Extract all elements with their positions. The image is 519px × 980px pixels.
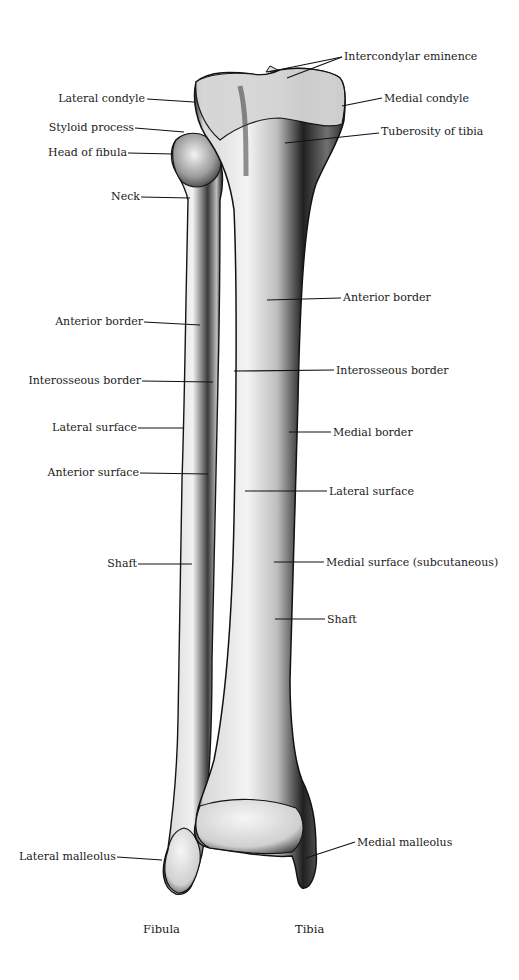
label-medial-malleolus: Medial malleolus [357,836,452,850]
caption-fibula: Fibula [143,922,180,936]
label-tibia-anterior-border: Anterior border [343,291,431,305]
label-medial-border: Medial border [333,426,413,440]
label-lateral-malleolus: Lateral malleolus [19,850,116,864]
label-fibula-interosseous-border: Interosseous border [28,374,141,388]
label-tibia-interosseous-border: Interosseous border [336,364,449,378]
label-fibula-anterior-border: Anterior border [55,315,143,329]
label-neck: Neck [111,190,140,204]
label-fibula-anterior-surface: Anterior surface [48,466,139,480]
label-tuberosity-of-tibia: Tuberosity of tibia [381,125,483,139]
label-tibia-shaft: Shaft [327,613,357,627]
label-medial-condyle: Medial condyle [384,92,469,106]
label-intercondylar-eminence: Intercondylar eminence [344,50,477,64]
label-fibula-shaft: Shaft [107,557,137,571]
label-tibia-lateral-surface: Lateral surface [329,485,414,499]
tibia-fibula-diagram: Lateral condyle Styloid process Head of … [0,0,519,980]
label-head-of-fibula: Head of fibula [48,146,127,160]
caption-tibia: Tibia [295,922,324,936]
label-medial-surface: Medial surface (subcutaneous) [326,556,498,570]
label-fibula-lateral-surface: Lateral surface [52,421,137,435]
label-styloid-process: Styloid process [49,121,134,135]
label-lateral-condyle: Lateral condyle [58,92,145,106]
